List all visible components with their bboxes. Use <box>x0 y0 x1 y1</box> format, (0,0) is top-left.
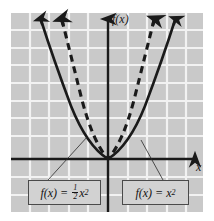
curve-half-x-squared-arrow-right <box>153 19 155 25</box>
eq-paren-close-right: ) <box>148 187 152 199</box>
eq-numerator-left: 1 <box>72 184 78 192</box>
eq-paren-close-left: ) <box>53 187 57 199</box>
x-axis-label: x <box>196 161 201 173</box>
equation-x-squared: f(x)=x2 <box>135 187 175 199</box>
y-axis-label: f(x) <box>112 13 129 25</box>
callout-half-x-squared: f(x)=12x2 <box>28 180 101 205</box>
eq-exponent-right: 2 <box>172 189 176 197</box>
parabola-figure: f(x) x f(x)=12x2 f(x)=x2 <box>0 0 214 221</box>
curve-half-x-squared-arrow-left <box>61 19 63 25</box>
eq-equals-right: = <box>155 187 163 199</box>
callout-x-squared: f(x)=x2 <box>122 180 189 205</box>
eq-equals-left: = <box>60 187 68 199</box>
equation-half-x-squared: f(x)=12x2 <box>40 184 88 202</box>
eq-exponent-left: 2 <box>85 189 89 197</box>
eq-denominator-left: 2 <box>72 192 78 201</box>
eq-fraction-one-half: 12 <box>72 184 78 202</box>
